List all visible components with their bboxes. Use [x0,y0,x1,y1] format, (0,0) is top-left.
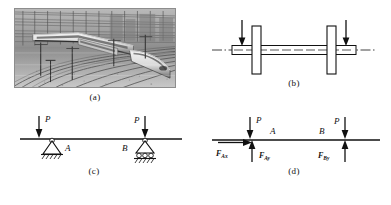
caption-b: (b) [274,78,314,88]
train-photo [15,9,175,88]
photo-frame [14,8,176,88]
fbd-load-label-p-right: P [333,116,340,126]
load-arrow-right [343,20,350,46]
caption-d: (d) [274,166,314,176]
wheel-left [252,26,261,74]
fbd-load-label-p-left: P [255,115,262,125]
reaction-label-fay: FAy [258,151,271,161]
panel-c-beam-supports: P P A [14,112,186,180]
panel-a-photograph: (a) [14,8,176,88]
reaction-arrow-fby [342,140,349,162]
wheel-right [327,26,336,74]
axle-diagram [210,10,378,88]
support-pin-a [41,138,63,159]
engineering-figure: (a) (b) [0,0,391,205]
support-roller-b [134,138,156,163]
fbd-load-p-right [342,117,349,139]
load-label-p-right: P [133,115,140,125]
load-arrow-left [239,20,246,46]
load-p-left [36,116,43,138]
fbd-point-label-a: A [269,126,276,136]
reaction-label-fby: FBy [317,151,330,161]
fbd-load-p-left [247,117,254,139]
support-label-a: A [64,143,71,153]
load-p-right [142,116,149,138]
support-label-b: B [122,143,128,153]
panel-d-free-body-diagram: P A P B FAx [206,112,384,180]
reaction-label-fax: FAx [215,149,228,159]
panel-b-axle-schematic: (b) [210,10,378,88]
load-label-p-left: P [44,114,51,124]
caption-a: (a) [75,92,115,102]
caption-c: (c) [74,166,114,176]
fbd-point-label-b: B [319,126,325,136]
